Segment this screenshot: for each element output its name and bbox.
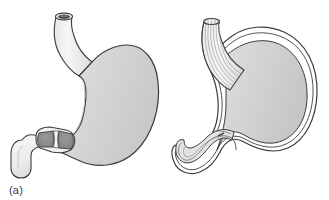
figure-panel-b: (b) [160, 0, 329, 200]
esophageal-lumen [58, 15, 69, 19]
panel-a-label: (a) [9, 185, 23, 196]
figure-root: (a) [0, 0, 329, 200]
esophagus [54, 16, 92, 76]
pyloric-sphincter-muscle-right [58, 131, 73, 149]
pyloric-sphincter-muscle-left [38, 131, 54, 147]
figure-panel-a: (a) [0, 0, 165, 200]
stomach-diagram-a [0, 0, 165, 200]
pyloric-lumen-channel [54, 131, 59, 148]
stomach-diagram-b [160, 0, 329, 200]
